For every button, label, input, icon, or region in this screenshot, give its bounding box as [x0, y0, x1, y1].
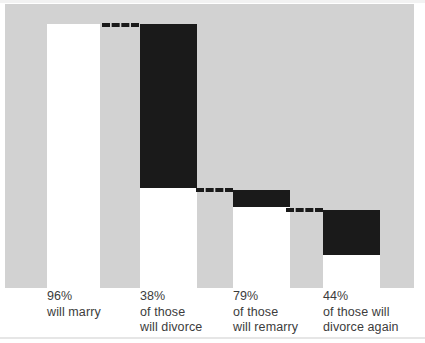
frame-bottom-rule [0, 337, 425, 339]
bar-divorce-light-segment [140, 188, 197, 288]
label-divorce: 38%of thosewill divorce [140, 289, 202, 336]
chart-label-row: 96%will marry38%of thosewill divorce79%o… [0, 289, 425, 337]
label-divorce-again-line-2: divorce again [323, 320, 399, 336]
label-divorce-again-percent: 44% [323, 289, 399, 305]
label-divorce-percent: 38% [140, 289, 202, 305]
leader-2-dashed-connector [196, 188, 233, 192]
bar-divorce-dark-segment [140, 24, 197, 188]
bar-divorce-again-dark-segment [323, 210, 380, 255]
label-remarry-line-1: of those [233, 305, 298, 321]
label-divorce-again-line-1: of those will [323, 305, 399, 321]
bar-remarry-light-segment [233, 207, 290, 288]
label-remarry-line-2: will remarry [233, 320, 298, 336]
label-divorce-line-2: will divorce [140, 320, 202, 336]
label-marry: 96%will marry [47, 289, 101, 320]
label-divorce-line-1: of those [140, 305, 202, 321]
bar-remarry-dark-segment [233, 190, 290, 207]
leader-3-dashed-connector [286, 208, 323, 212]
label-marry-percent: 96% [47, 289, 101, 305]
bar-divorce-again-light-segment [323, 255, 380, 288]
marriage-divorce-waterfall-chart: 96%will marry38%of thosewill divorce79%o… [0, 0, 425, 343]
bar-marry-light-segment [47, 24, 100, 288]
frame-top-rule [0, 0, 425, 3]
chart-plot-field [5, 4, 414, 288]
leader-1-dashed-connector [102, 23, 139, 27]
label-remarry: 79%of thosewill remarry [233, 289, 298, 336]
label-marry-line-1: will marry [47, 305, 101, 321]
label-divorce-again: 44%of those willdivorce again [323, 289, 399, 336]
label-remarry-percent: 79% [233, 289, 298, 305]
